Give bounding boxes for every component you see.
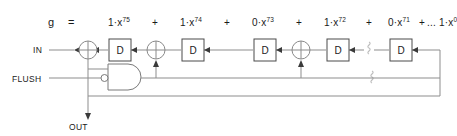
wire-break-squiggle-flushbus: [371, 71, 373, 83]
xor-gate-1: [79, 41, 97, 59]
register-d-3-label: D: [261, 45, 268, 56]
arrowhead-into-d2: [204, 47, 210, 53]
arrowhead-into-d5: [412, 47, 418, 53]
arrowhead-into-d3: [276, 47, 282, 53]
arrowhead-into-d1: [131, 47, 137, 53]
inverter-bubble-icon: [101, 75, 108, 82]
wire-break-squiggle-datapath: [368, 42, 370, 54]
arrowhead-out: [85, 113, 91, 120]
schematic-canvas: D D D D D: [0, 0, 457, 136]
arrowhead-tap-xor2: [153, 60, 159, 67]
register-d-4-label: D: [334, 45, 341, 56]
register-d-1: D: [109, 39, 131, 61]
xor-gate-2: [147, 41, 165, 59]
and-gate-flush: [88, 64, 156, 90]
register-d-5-label: D: [397, 45, 404, 56]
register-d-2-label: D: [189, 45, 196, 56]
register-d-2: D: [182, 39, 204, 61]
lfsr-crc-diagram: g = 1·x75 + 1·x74 + 0·x73 + 1·x72 + 0·x7…: [0, 0, 457, 136]
register-d-3: D: [254, 39, 276, 61]
arrowhead-tap-xor3: [298, 60, 304, 67]
arrowhead-into-d4: [349, 47, 355, 53]
register-d-5: D: [390, 39, 412, 61]
register-d-1-label: D: [116, 45, 123, 56]
register-d-4: D: [327, 39, 349, 61]
xor-gate-3: [292, 41, 310, 59]
